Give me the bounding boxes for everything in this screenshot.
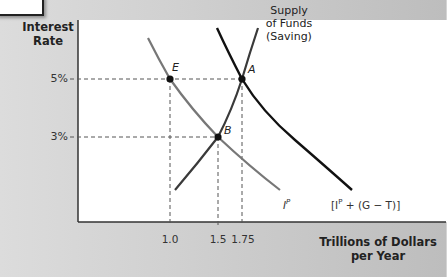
y-tick-5: 5%	[51, 72, 68, 85]
supply-curve-label: Supply of Funds (Saving)	[252, 4, 326, 43]
point-a-label: A	[248, 63, 256, 76]
y-axis-label-line1: Interest	[18, 20, 78, 34]
ipgt-label-post: + (G − T)]	[342, 199, 400, 211]
x-axis-label-line2: per Year	[318, 249, 438, 263]
point-b	[214, 133, 221, 140]
ip-plus-deficit-label: [IP + (G − T)]	[331, 198, 400, 211]
x-axis-label-line1: Trillions of Dollars	[318, 235, 438, 249]
y-axis-label-line2: Rate	[18, 34, 78, 48]
x-tick-1-75: 1.75	[231, 233, 254, 245]
supply-curve	[175, 28, 258, 190]
guide-lines	[70, 79, 242, 226]
supply-label-line3: (Saving)	[252, 30, 326, 43]
x-axis-label: Trillions of Dollars per Year	[318, 235, 438, 263]
point-b-label: B	[224, 124, 232, 137]
ip-curve	[148, 38, 280, 190]
ip-curve-label: IP	[283, 198, 290, 211]
point-a	[238, 75, 245, 82]
y-axis-label: Interest Rate	[18, 20, 78, 48]
x-tick-1: 1.0	[162, 233, 179, 245]
supply-label-line1: Supply	[252, 4, 326, 17]
x-tick-1-5: 1.5	[210, 233, 227, 245]
ip-plus-deficit-curve	[217, 28, 352, 190]
ip-label-sup: P	[286, 198, 290, 206]
point-e-label: E	[172, 61, 179, 74]
point-e	[166, 75, 173, 82]
y-tick-3: 3%	[51, 130, 68, 143]
supply-label-line2: of Funds	[252, 17, 326, 30]
